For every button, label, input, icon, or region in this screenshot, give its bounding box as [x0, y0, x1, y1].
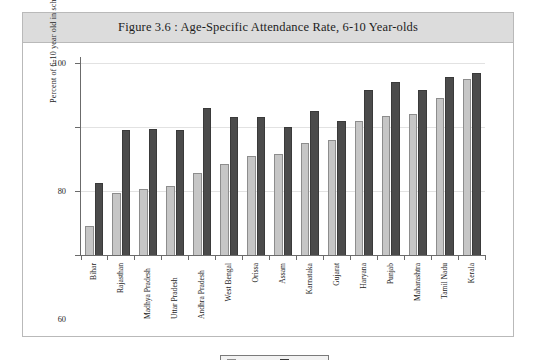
x-tick [377, 255, 404, 260]
bar-groups [81, 63, 485, 255]
bar-nfhs-2-8 [310, 111, 319, 255]
bar-group [431, 63, 458, 255]
x-tick [323, 255, 350, 260]
bar-nfhs-1-10 [355, 121, 364, 255]
x-axis-label-13: Tamil Nadu [441, 263, 449, 299]
x-tick [297, 255, 324, 260]
bar-nfhs-1-8 [301, 143, 310, 255]
x-label-cell: Orissa [243, 261, 270, 333]
x-axis-label-11: Punjab [387, 263, 395, 284]
bar-group [377, 63, 404, 255]
bar-nfhs-1-13 [436, 98, 445, 255]
x-axis-label-9: Gujarat [333, 263, 341, 286]
x-axis-label-8: Karnataka [306, 263, 314, 294]
figure-frame: Figure 3.6 : Age-Specific Attendance Rat… [22, 12, 514, 337]
x-label-cell: Assam [270, 261, 297, 333]
y-tick-label-60: 60 [58, 315, 66, 324]
bar-nfhs-1-0 [85, 226, 94, 255]
bar-group [297, 63, 324, 255]
bar-nfhs-1-1 [112, 193, 121, 255]
bar-group [323, 63, 350, 255]
x-label-cell: Kerala [458, 261, 485, 333]
x-label-cell: Uttar Pradesh [162, 261, 189, 333]
x-tick [270, 255, 297, 260]
x-axis-label-3: Uttar Pradesh [171, 263, 179, 319]
y-tick-label-100: 100 [53, 59, 66, 68]
bar-group [404, 63, 431, 255]
x-tick [135, 255, 162, 260]
bar-nfhs-1-6 [247, 156, 256, 255]
x-axis-labels: BiharRajasthanMadhya PradeshUttar Prades… [81, 261, 485, 333]
x-label-cell: Punjab [377, 261, 404, 333]
chart-axes: 406080100 [81, 63, 485, 255]
page-title: Figure 3.6 : Age-Specific Attendance Rat… [118, 20, 418, 35]
x-axis-label-1: Rajasthan [117, 263, 125, 293]
x-axis-label-7: Assam [279, 263, 287, 284]
bar-nfhs-1-14 [463, 79, 472, 255]
x-tick [81, 255, 108, 260]
bar-group [216, 63, 243, 255]
x-tick [350, 255, 377, 260]
x-tick [108, 255, 135, 260]
bar-group [135, 63, 162, 255]
bar-nfhs-2-12 [418, 90, 427, 255]
x-label-cell: Gujarat [323, 261, 350, 333]
x-label-cell: West Bengal [216, 261, 243, 333]
x-axis-ticks [81, 255, 485, 260]
x-tick [216, 255, 243, 260]
bar-nfhs-1-7 [274, 154, 283, 255]
x-axis-label-6: Orissa [252, 263, 260, 282]
bar-nfhs-2-0 [95, 183, 104, 255]
x-label-cell: Rajasthan [108, 261, 135, 333]
bar-group [458, 63, 485, 255]
x-axis-label-12: Maharashtra [414, 263, 422, 301]
bar-nfhs-2-4 [203, 108, 212, 255]
x-tick [458, 255, 485, 260]
x-label-cell: Bihar [81, 261, 108, 333]
x-tick [189, 255, 216, 260]
bar-group [81, 63, 108, 255]
bar-nfhs-1-12 [409, 114, 418, 255]
bar-nfhs-1-9 [328, 140, 337, 255]
bar-nfhs-2-13 [445, 77, 454, 255]
bar-group [108, 63, 135, 255]
x-axis-label-0: Bihar [90, 263, 98, 280]
x-label-cell: Andhra Pradesh [189, 261, 216, 333]
bar-nfhs-2-9 [337, 121, 346, 255]
y-axis-label: Percent of 6-10 year old in schools [49, 0, 58, 103]
x-label-cell: Tamil Nadu [431, 261, 458, 333]
x-label-cell: Karnataka [297, 261, 324, 333]
bar-nfhs-2-5 [230, 117, 239, 255]
bar-nfhs-2-2 [149, 129, 158, 255]
x-axis-label-2: Madhya Pradesh [144, 263, 152, 319]
figure-title-bar: Figure 3.6 : Age-Specific Attendance Rat… [23, 13, 513, 43]
bar-group [243, 63, 270, 255]
bar-nfhs-1-3 [166, 186, 175, 255]
x-tick [404, 255, 431, 260]
bar-group [189, 63, 216, 255]
bar-nfhs-2-11 [391, 82, 400, 255]
chart-legend: NFHS-1NFHS-2 [220, 355, 329, 360]
plot-area: Percent of 6-10 year old in schools 4060… [23, 43, 513, 337]
y-tick-label-80: 80 [58, 187, 66, 196]
bar-group [350, 63, 377, 255]
bar-group [270, 63, 297, 255]
x-axis-label-4: Andhra Pradesh [198, 263, 206, 319]
bar-nfhs-2-10 [364, 90, 373, 255]
bar-nfhs-1-2 [139, 189, 148, 255]
x-tick [431, 255, 458, 260]
x-tick [243, 255, 270, 260]
footnote-text [47, 329, 527, 337]
bar-group [162, 63, 189, 255]
bar-nfhs-1-5 [220, 164, 229, 255]
x-label-cell: Haryana [350, 261, 377, 333]
bar-nfhs-2-6 [257, 117, 266, 255]
x-axis-label-14: Kerala [467, 263, 475, 283]
bar-nfhs-2-7 [284, 127, 293, 255]
x-label-cell: Madhya Pradesh [135, 261, 162, 333]
bar-nfhs-2-3 [176, 130, 185, 255]
x-axis-label-10: Haryana [360, 263, 368, 289]
x-axis-label-5: West Bengal [225, 263, 233, 301]
bar-nfhs-2-1 [122, 130, 131, 255]
bar-nfhs-1-11 [382, 116, 391, 255]
